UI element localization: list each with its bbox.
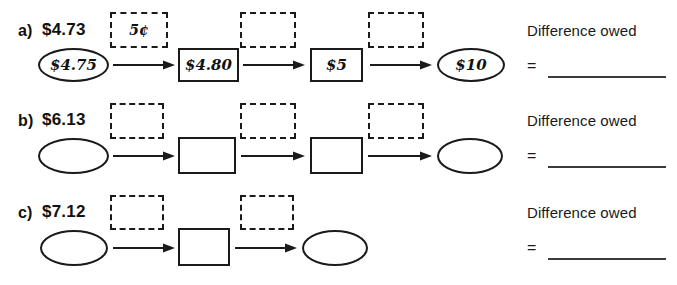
flow-arrow-a-3 [370,59,432,71]
worksheet-canvas: a) $4.73 5¢ $4.75 $4.80 $5 $10 [0,0,677,285]
amount-node-a-3[interactable]: $5 [310,48,363,82]
amount-node-a-2[interactable]: $4.80 [178,48,239,82]
step-box-b-3[interactable] [368,103,424,139]
amount-node-a-1-label: $4.75 [50,58,97,73]
amount-node-c-2[interactable] [178,228,230,266]
amount-node-b-4[interactable] [437,138,503,174]
flow-arrow-c-2 [235,242,297,254]
step-box-a-2[interactable] [240,12,296,48]
row-start-amount-a: $4.73 [42,20,86,40]
answer-title-c: Difference owed [527,204,637,221]
amount-node-a-4-label: $10 [455,58,486,73]
step-box-a-1-label: 5¢ [129,22,148,38]
answer-title-a: Difference owed [527,22,637,39]
amount-node-a-1[interactable]: $4.75 [38,48,109,82]
step-box-c-1[interactable] [110,195,164,230]
amount-node-b-1[interactable] [38,138,109,174]
flow-arrow-b-3 [368,150,432,162]
amount-node-a-4[interactable]: $10 [437,48,505,82]
flow-arrow-b-1 [113,150,175,162]
amount-node-b-3[interactable] [310,137,363,174]
row-start-amount-c: $7.12 [42,202,86,222]
problem-row-a: a) $4.73 5¢ $4.75 $4.80 $5 $10 [0,0,677,95]
row-start-amount-b: $6.13 [42,110,86,130]
amount-node-a-3-label: $5 [326,58,347,73]
step-box-b-2[interactable] [240,103,296,139]
flow-arrow-a-2 [243,59,305,71]
flow-arrow-a-1 [113,59,175,71]
row-label-c: c) [18,204,33,222]
answer-title-b: Difference owed [527,112,637,129]
problem-row-c: c) $7.12 Dif [0,182,677,277]
flow-arrow-c-1 [113,242,175,254]
answer-input-a[interactable] [548,76,666,78]
answer-equals-a: = [527,57,536,75]
row-label-a: a) [18,22,33,40]
answer-input-b[interactable] [548,166,666,168]
answer-input-c[interactable] [548,258,666,260]
problem-row-b: b) $6.13 [0,90,677,185]
amount-node-a-2-label: $4.80 [185,58,232,73]
flow-arrow-b-2 [241,150,305,162]
amount-node-c-1[interactable] [40,230,108,266]
row-label-b: b) [18,112,34,130]
step-box-c-2[interactable] [240,195,294,230]
answer-equals-c: = [527,239,536,257]
answer-equals-b: = [527,147,536,165]
amount-node-b-2[interactable] [178,137,236,174]
step-box-a-3[interactable] [368,12,424,48]
amount-node-c-3[interactable] [302,230,368,266]
step-box-a-1[interactable]: 5¢ [110,12,168,48]
step-box-b-1[interactable] [110,103,164,139]
